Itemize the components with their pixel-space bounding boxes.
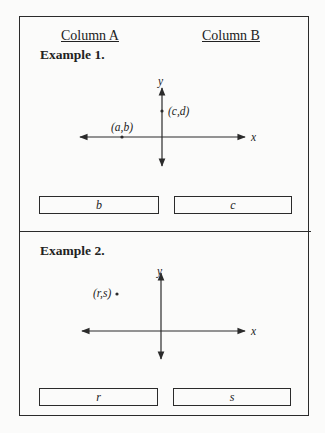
example-1-x-label: x (250, 131, 257, 143)
example-2-column-b-box: s (173, 388, 291, 406)
example-1-y-label: y (157, 75, 164, 88)
example-2-y-label: y (156, 265, 163, 278)
graph-labels: y x (a,b) (c,d) y x (r,s) (0, 0, 325, 433)
example-2-column-a-box: r (39, 388, 158, 406)
example-1-column-b-box: c (174, 196, 292, 214)
example-2-title: Example 2. (40, 243, 105, 259)
point-c-d-label: (c,d) (168, 105, 190, 118)
example-1-column-a-box: b (39, 196, 159, 214)
point-a-b-label: (a,b) (111, 121, 133, 134)
point-r-s-label: (r,s) (93, 287, 111, 300)
example-2-x-label: x (250, 325, 257, 337)
